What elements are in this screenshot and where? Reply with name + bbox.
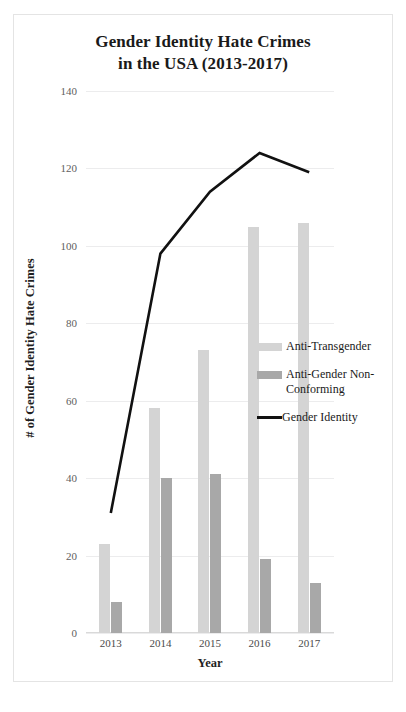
- y-tick-label-100: 100: [61, 240, 78, 252]
- bar-swatch-dark-icon: [257, 371, 282, 379]
- x-axis-ticks: 20132014201520162017: [86, 637, 334, 649]
- bar-group-2014: [149, 91, 172, 633]
- x-axis-label: Year: [86, 656, 334, 671]
- bar-2014-series-2: [161, 478, 172, 633]
- legend-item-1[interactable]: Anti-Transgender: [257, 339, 389, 354]
- y-tick-label-20: 20: [66, 550, 77, 562]
- x-tick-label-2014: 2014: [140, 637, 180, 649]
- chart-title-line-1: Gender Identity Hate Crimes: [95, 32, 310, 51]
- legend-label-3: Gender Identity: [282, 410, 358, 425]
- bar-2017-series-2: [310, 583, 321, 633]
- x-tick-label-2016: 2016: [240, 637, 280, 649]
- bar-2016-series-2: [260, 559, 271, 633]
- y-tick-label-120: 120: [61, 162, 78, 174]
- y-tick-label-80: 80: [66, 317, 77, 329]
- gridline-0: [86, 633, 334, 634]
- y-tick-label-140: 140: [61, 85, 78, 97]
- chart-figure: Gender Identity Hate Crimes in the USA (…: [13, 14, 393, 682]
- chart-title: Gender Identity Hate Crimes in the USA (…: [14, 31, 392, 75]
- legend-label-1: Anti-Transgender: [286, 339, 371, 354]
- y-axis-label: # of Gender Identity Hate Crimes: [23, 258, 38, 437]
- bar-2014-series-1: [149, 408, 160, 633]
- line-swatch-black-icon: [257, 416, 282, 419]
- y-tick-label-60: 60: [66, 395, 77, 407]
- bar-2015-series-2: [210, 474, 221, 633]
- bar-2013-series-2: [111, 602, 122, 633]
- legend-item-2[interactable]: Anti-Gender Non-Conforming: [257, 367, 389, 397]
- y-tick-label-0: 0: [72, 627, 78, 639]
- y-tick-label-40: 40: [66, 472, 77, 484]
- bar-group-2015: [198, 91, 221, 633]
- x-tick-label-2015: 2015: [190, 637, 230, 649]
- chart-title-line-2: in the USA (2013-2017): [14, 53, 392, 75]
- x-tick-label-2013: 2013: [91, 637, 131, 649]
- x-tick-label-2017: 2017: [289, 637, 329, 649]
- bar-2013-series-1: [99, 544, 110, 633]
- bar-group-2013: [99, 91, 122, 633]
- bar-swatch-light-icon: [257, 343, 282, 351]
- chart-legend: Anti-TransgenderAnti-Gender Non-Conformi…: [257, 339, 389, 438]
- bar-2015-series-1: [198, 350, 209, 633]
- legend-item-3[interactable]: Gender Identity: [257, 410, 389, 425]
- legend-label-2: Anti-Gender Non-Conforming: [286, 367, 389, 397]
